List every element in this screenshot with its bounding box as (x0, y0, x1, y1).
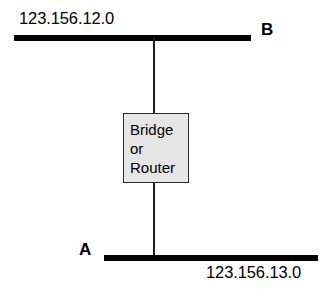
network-address-label-bottom: 123.156.13.0 (206, 263, 301, 282)
bridge-or-router-box: Bridge or Router (123, 113, 189, 183)
station-label-b: B (261, 20, 273, 40)
network-segment-bar-bottom (104, 255, 318, 261)
network-segment-bar-top (14, 35, 251, 41)
network-topology-diagram: 123.156.12.0 B Bridge or Router A 123.15… (0, 0, 332, 297)
station-label-a: A (79, 240, 91, 260)
bridge-or-router-label: Bridge or Router (130, 120, 186, 177)
network-address-label-top: 123.156.12.0 (19, 9, 114, 28)
